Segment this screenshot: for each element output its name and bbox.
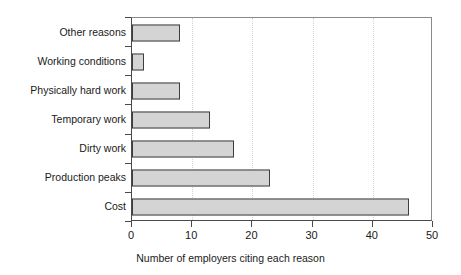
bar bbox=[132, 199, 409, 216]
x-axis-tick-label: 30 bbox=[292, 229, 332, 242]
x-axis-title: Number of employers citing each reason bbox=[0, 252, 461, 265]
bars-layer bbox=[132, 18, 431, 220]
bar-row bbox=[132, 164, 431, 193]
bar-row bbox=[132, 47, 431, 76]
x-axis-tick-label: 40 bbox=[352, 229, 392, 242]
x-axis-tick bbox=[251, 221, 252, 227]
y-axis-tick-label: Temporary work bbox=[2, 113, 126, 125]
bar bbox=[132, 53, 144, 70]
bar-row bbox=[132, 193, 431, 222]
x-axis-tick-label: 10 bbox=[171, 229, 211, 242]
x-axis-tick-label: 0 bbox=[111, 229, 151, 242]
x-axis-tick bbox=[372, 221, 373, 227]
x-axis-tick bbox=[191, 221, 192, 227]
bar-chart: Other reasonsWorking conditionsPhysicall… bbox=[0, 0, 461, 275]
y-axis-tick-label: Working conditions bbox=[2, 55, 126, 67]
bar-row bbox=[132, 135, 431, 164]
plot-area bbox=[131, 17, 432, 221]
x-axis-tick-label: 20 bbox=[231, 229, 271, 242]
y-axis-tick-label: Cost bbox=[2, 200, 126, 212]
bar-row bbox=[132, 105, 431, 134]
bar bbox=[132, 82, 180, 99]
x-axis-tick-label: 50 bbox=[412, 229, 452, 242]
x-axis-tick bbox=[312, 221, 313, 227]
x-axis-tick bbox=[131, 221, 132, 227]
x-axis-tick bbox=[432, 221, 433, 227]
bar-row bbox=[132, 76, 431, 105]
y-axis-tick-label: Physically hard work bbox=[2, 84, 126, 96]
y-axis-tick-label: Other reasons bbox=[2, 26, 126, 38]
bar bbox=[132, 141, 234, 158]
bar bbox=[132, 170, 270, 187]
y-axis-tick-label: Production peaks bbox=[2, 171, 126, 183]
y-axis-tick-label: Dirty work bbox=[2, 142, 126, 154]
bar bbox=[132, 24, 180, 41]
y-axis-category-labels: Other reasonsWorking conditionsPhysicall… bbox=[0, 17, 126, 221]
bar-row bbox=[132, 18, 431, 47]
bar bbox=[132, 111, 210, 128]
